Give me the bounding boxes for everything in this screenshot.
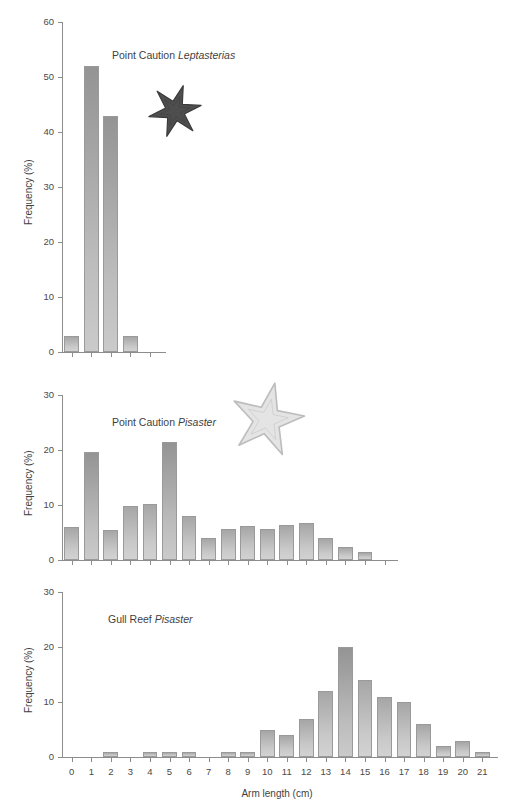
bar [240, 752, 255, 758]
y-axis-title: Frequency (%) [24, 647, 34, 713]
y-axis-tick [58, 132, 62, 133]
y-axis-tick [58, 702, 62, 703]
panel-title-site: Point Caution [112, 49, 178, 61]
bar [377, 697, 392, 758]
x-axis-line [62, 757, 498, 758]
figure-root: 0102030405060Point Caution LeptasteriasF… [0, 0, 529, 805]
x-axis-tick [326, 561, 327, 565]
y-axis-line [62, 592, 63, 758]
y-axis-tick [58, 757, 62, 758]
bar [103, 530, 118, 560]
y-axis-tick-label: 30 [28, 390, 54, 400]
panel-title: Point Caution Leptasterias [112, 50, 235, 61]
y-axis-line [62, 22, 63, 353]
x-axis-tick [150, 561, 151, 565]
x-axis-tick [150, 758, 151, 762]
bar [318, 538, 333, 560]
x-axis-tick [463, 758, 464, 762]
x-axis-tick [287, 561, 288, 565]
x-axis-tick [345, 561, 346, 565]
y-axis-title: Frequency (%) [24, 159, 34, 225]
bar [260, 529, 275, 560]
bar [318, 691, 333, 757]
bar [162, 442, 177, 560]
x-axis-tick-label: 21 [470, 767, 494, 777]
x-axis-tick [91, 561, 92, 565]
bar [182, 752, 197, 758]
x-axis-tick [365, 758, 366, 762]
panel-title-species: Pisaster [178, 416, 216, 428]
y-axis-tick-label: 60 [28, 17, 54, 27]
bar [358, 680, 373, 757]
y-axis-tick [58, 560, 62, 561]
panel-title-species: Leptasterias [178, 49, 235, 61]
bar [299, 719, 314, 758]
x-axis-tick [306, 758, 307, 762]
bar [84, 452, 99, 560]
panel-title-site: Gull Reef [108, 613, 155, 625]
x-axis-tick [91, 353, 92, 357]
x-axis-tick [170, 758, 171, 762]
bar [397, 702, 412, 757]
y-axis-tick [58, 450, 62, 451]
x-axis-tick [228, 758, 229, 762]
x-axis-tick [287, 758, 288, 762]
x-axis-tick [91, 758, 92, 762]
x-axis-tick [482, 758, 483, 762]
y-axis-tick-label: 30 [28, 587, 54, 597]
bar [455, 741, 470, 758]
bar [240, 526, 255, 560]
x-axis-line [62, 560, 398, 561]
y-axis-tick [58, 242, 62, 243]
bar [436, 746, 451, 757]
y-axis-tick-label: 0 [28, 752, 54, 762]
leptasterias-starfish-illustration [146, 82, 204, 140]
bar [338, 647, 353, 757]
y-axis-tick-label: 40 [28, 127, 54, 137]
panel-title-site: Point Caution [112, 416, 178, 428]
bar [103, 116, 118, 353]
x-axis-tick [326, 758, 327, 762]
y-axis-tick-label: 0 [28, 347, 54, 357]
y-axis-tick [58, 297, 62, 298]
bar [123, 336, 138, 353]
y-axis-line [62, 395, 63, 561]
x-axis-tick [267, 561, 268, 565]
x-axis-tick [72, 353, 73, 357]
bar [64, 527, 79, 560]
y-axis-tick [58, 187, 62, 188]
y-axis-tick [58, 647, 62, 648]
bar [221, 529, 236, 560]
y-axis-tick [58, 352, 62, 353]
x-axis-tick [111, 561, 112, 565]
bar [143, 504, 158, 560]
x-axis-tick [365, 561, 366, 565]
y-axis-tick [58, 77, 62, 78]
x-axis-tick [111, 353, 112, 357]
bar [279, 525, 294, 560]
y-axis-tick [58, 592, 62, 593]
x-axis-tick [443, 758, 444, 762]
y-axis-tick [58, 22, 62, 23]
y-axis-tick-label: 0 [28, 555, 54, 565]
x-axis-tick [111, 758, 112, 762]
bar [143, 752, 158, 758]
x-axis-tick [424, 758, 425, 762]
x-axis-tick [130, 758, 131, 762]
x-axis-tick [72, 758, 73, 762]
y-axis-tick [58, 395, 62, 396]
y-axis-tick [58, 505, 62, 506]
bar [475, 752, 490, 758]
x-axis-title: Arm length (cm) [62, 789, 492, 799]
pisaster-starfish-illustration [226, 379, 308, 461]
bar [416, 724, 431, 757]
bar [84, 66, 99, 352]
bar [64, 336, 79, 353]
x-axis-tick [404, 758, 405, 762]
bar [299, 523, 314, 560]
panel-title: Point Caution Pisaster [112, 417, 216, 428]
bar [358, 552, 373, 560]
x-axis-tick [248, 561, 249, 565]
bar [338, 547, 353, 560]
x-axis-tick [130, 353, 131, 357]
